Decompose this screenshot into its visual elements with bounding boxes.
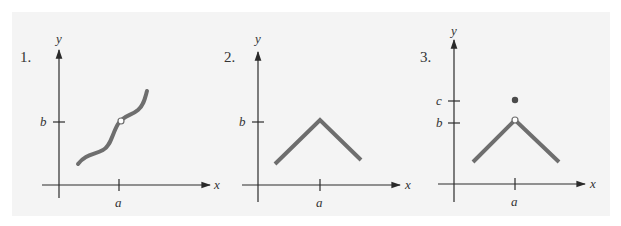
graphs-figure: 1. y x b a 2. y x b a 3. y x c b a (0, 0, 621, 226)
x-axis-label: x (589, 176, 596, 191)
graph-2: 2. y x b a (224, 31, 411, 210)
b-tick-label: b (436, 115, 443, 130)
filled-dot-marker (512, 97, 518, 103)
x-axis-label: x (213, 177, 220, 192)
graph-3: 3. y x c b a (420, 23, 596, 209)
a-tick-label: a (511, 194, 518, 209)
b-tick-label: b (239, 114, 246, 129)
graph-number: 1. (20, 49, 31, 65)
a-tick-label: a (316, 195, 323, 210)
v-curve (473, 120, 559, 162)
graph-number: 3. (420, 49, 431, 65)
open-circle-marker (118, 118, 124, 124)
v-curve (275, 120, 361, 164)
graph-1: 1. y x b a (20, 31, 220, 210)
y-axis-label: y (253, 31, 261, 46)
graph-number: 2. (224, 49, 235, 65)
b-tick-label: b (40, 114, 47, 129)
x-axis-label: x (404, 177, 411, 192)
c-tick-label: c (436, 93, 442, 108)
wavy-curve (78, 91, 147, 164)
y-axis-label: y (449, 23, 457, 38)
a-tick-label: a (115, 195, 122, 210)
open-circle-marker (512, 117, 518, 123)
y-axis-label: y (54, 31, 62, 46)
